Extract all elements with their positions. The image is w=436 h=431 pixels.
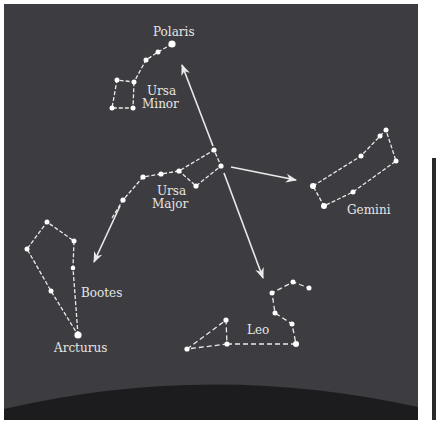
star-chart: Polaris Ursa Minor Ursa Major Gemini Boo… bbox=[0, 0, 436, 431]
ursa-major-label-2: Major bbox=[152, 197, 188, 211]
leo-stars bbox=[184, 280, 311, 352]
bootes-constellation bbox=[27, 222, 78, 335]
arcturus-star bbox=[74, 331, 81, 338]
arrow-to-bootes bbox=[94, 206, 120, 262]
leo-constellation bbox=[187, 282, 309, 349]
bootes-label: Bootes bbox=[81, 286, 122, 300]
arrow-to-leo bbox=[224, 173, 263, 278]
gemini-label: Gemini bbox=[347, 203, 391, 217]
ursa-major-label-1: Ursa bbox=[157, 184, 186, 198]
arrow-to-polaris bbox=[182, 65, 213, 146]
arrow-to-gemini bbox=[231, 167, 296, 180]
horizon bbox=[0, 384, 422, 424]
bootes-stars bbox=[25, 220, 82, 339]
gemini-constellation bbox=[313, 130, 396, 206]
leo-label: Leo bbox=[247, 323, 269, 337]
ursa-minor-label-1: Ursa bbox=[147, 84, 176, 98]
polaris-star bbox=[168, 40, 175, 47]
polaris-label: Polaris bbox=[153, 25, 195, 39]
ursa-minor-label-2: Minor bbox=[142, 97, 179, 111]
arcturus-label: Arcturus bbox=[53, 341, 107, 355]
